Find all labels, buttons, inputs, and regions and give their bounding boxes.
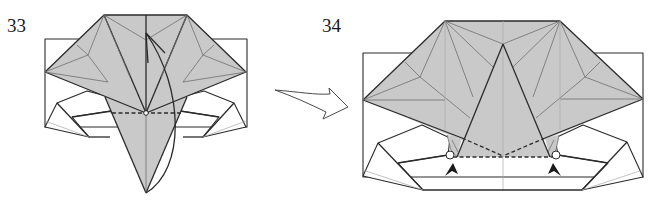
hollow-arrow-right-icon	[275, 88, 348, 119]
pivot-circle-right-icon	[552, 151, 560, 159]
pivot-point-icon	[144, 111, 149, 116]
step-34-figure	[363, 21, 643, 190]
pivot-circle-left-icon	[446, 151, 454, 159]
origami-diagram	[0, 0, 650, 204]
step-33-figure	[45, 15, 247, 193]
